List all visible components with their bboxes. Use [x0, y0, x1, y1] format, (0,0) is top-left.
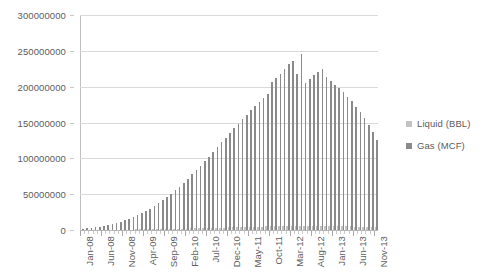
x-axis-tick-minor — [340, 231, 341, 234]
x-axis-tick-minor — [97, 231, 98, 234]
x-axis-tick-minor — [219, 231, 220, 234]
y-axis-tick-mark — [70, 194, 74, 195]
x-axis-tick-minor — [252, 231, 253, 234]
x-axis-tick-minor — [114, 231, 115, 234]
x-axis-tick-minor — [323, 231, 324, 234]
y-axis-tick-label: 300000000 — [18, 10, 66, 21]
x-axis-tick-minor — [336, 231, 337, 234]
legend-swatch-icon — [406, 143, 412, 149]
x-axis-tick-minor — [286, 231, 287, 234]
x-axis-tick-minor — [189, 231, 190, 234]
x-axis-tick-minor — [118, 231, 119, 234]
x-axis-tick-minor — [298, 231, 299, 234]
x-axis-tick-minor — [302, 231, 303, 234]
y-axis-tick-mark — [70, 123, 74, 124]
x-axis-tick-label: Dec-10 — [231, 236, 242, 267]
x-axis-tick-minor — [126, 231, 127, 234]
x-axis-tick-minor — [265, 231, 266, 234]
x-axis-tick-label: Feb-10 — [189, 236, 200, 267]
x-axis-tick-minor — [210, 231, 211, 234]
x-axis-tick-label: Mar-12 — [294, 236, 305, 267]
y-axis-tick-mark — [70, 230, 74, 231]
x-axis-tick-minor — [231, 231, 232, 234]
legend-label: Gas (MCF) — [417, 140, 465, 151]
y-axis-tick-mark — [70, 51, 74, 52]
x-axis-tick-minor — [277, 231, 278, 234]
x-axis-tick-minor — [130, 231, 131, 234]
x-axis-tick-minor — [361, 231, 362, 234]
x-axis-tick-minor — [88, 231, 89, 234]
production-bar-chart: 0500000001000000001500000002000000002500… — [0, 0, 489, 280]
y-axis-tick-label: 250000000 — [18, 45, 66, 56]
x-axis-tick-minor — [315, 231, 316, 234]
x-axis-tick-minor — [193, 231, 194, 234]
x-axis-tick-label: Jul-10 — [210, 236, 221, 262]
legend-swatch-icon — [406, 121, 412, 127]
x-axis-tick-minor — [84, 231, 85, 234]
bars-layer — [80, 15, 378, 230]
x-axis-tick-minor — [109, 231, 110, 234]
x-axis-tick-minor — [151, 231, 152, 234]
x-axis-tick-minor — [181, 231, 182, 234]
bar-gas — [376, 140, 378, 230]
x-axis-tick-minor — [139, 231, 140, 234]
y-axis-tick-mark — [70, 158, 74, 159]
x-axis-tick-label: Nov-13 — [378, 236, 389, 267]
x-axis-tick-label: Sep-09 — [168, 236, 179, 267]
x-axis-tick-minor — [294, 231, 295, 234]
y-axis-tick-label: 200000000 — [18, 81, 66, 92]
x-axis-tick-minor — [281, 231, 282, 234]
x-axis-labels: Jan-08Jun-08Nov-08Apr-09Sep-09Feb-10Jul-… — [80, 236, 378, 280]
x-axis-tick-label: Oct-11 — [273, 236, 284, 264]
x-axis-tick-minor — [307, 231, 308, 234]
x-axis-tick-minor — [214, 231, 215, 234]
y-axis-tick-label: 150000000 — [18, 117, 66, 128]
legend-item[interactable]: Liquid (BBL) — [406, 118, 486, 129]
x-axis-tick-minor — [198, 231, 199, 234]
x-axis-tick-minor — [244, 231, 245, 234]
chart-legend: Liquid (BBL)Gas (MCF) — [406, 118, 486, 162]
x-axis-tick-minor — [177, 231, 178, 234]
x-axis-tick-minor — [319, 231, 320, 234]
x-axis-tick-minor — [135, 231, 136, 234]
x-axis-tick-minor — [156, 231, 157, 234]
x-axis-tick-minor — [344, 231, 345, 234]
x-axis-tick-label: Jan-08 — [84, 236, 95, 266]
x-axis-tick-minor — [235, 231, 236, 234]
x-axis-tick-label: Jun-08 — [105, 236, 116, 266]
x-axis-tick-label: Apr-09 — [147, 236, 158, 265]
x-axis-tick-minor — [105, 231, 106, 234]
x-axis-tick-minor — [147, 231, 148, 234]
y-axis-tick-mark — [70, 15, 74, 16]
x-axis-tick-label: Nov-08 — [126, 236, 137, 267]
bar-group — [374, 15, 378, 230]
x-axis-tick-minor — [349, 231, 350, 234]
x-axis-tick-minor — [172, 231, 173, 234]
y-axis-tick-label: 50000000 — [23, 189, 66, 200]
legend-label: Liquid (BBL) — [417, 118, 470, 129]
x-axis-tick-minor — [365, 231, 366, 234]
x-axis-tick-label: Jun-13 — [357, 236, 368, 266]
x-axis-tick-minor — [357, 231, 358, 234]
x-axis-tick-minor — [328, 231, 329, 234]
x-axis-tick-label: Jan-13 — [336, 236, 347, 266]
x-axis-tick-minor — [93, 231, 94, 234]
x-axis-tick-minor — [370, 231, 371, 234]
x-axis-tick-label: May-11 — [252, 236, 263, 268]
x-axis-tick-minor — [256, 231, 257, 234]
x-axis-tick-minor — [239, 231, 240, 234]
x-axis-tick-minor — [223, 231, 224, 234]
x-axis-tick-minor — [260, 231, 261, 234]
x-axis-tick-minor — [160, 231, 161, 234]
y-axis-tick-mark — [70, 87, 74, 88]
x-axis-tick-minor — [202, 231, 203, 234]
plot-area — [80, 15, 378, 230]
x-axis-tick-minor — [273, 231, 274, 234]
x-axis-tick-label: Aug-12 — [315, 236, 326, 267]
y-axis: 0500000001000000001500000002000000002500… — [0, 0, 74, 240]
x-axis-tick-minor — [168, 231, 169, 234]
y-axis-tick-label: 0 — [61, 225, 66, 236]
y-axis-tick-label: 100000000 — [18, 153, 66, 164]
legend-item[interactable]: Gas (MCF) — [406, 140, 486, 151]
